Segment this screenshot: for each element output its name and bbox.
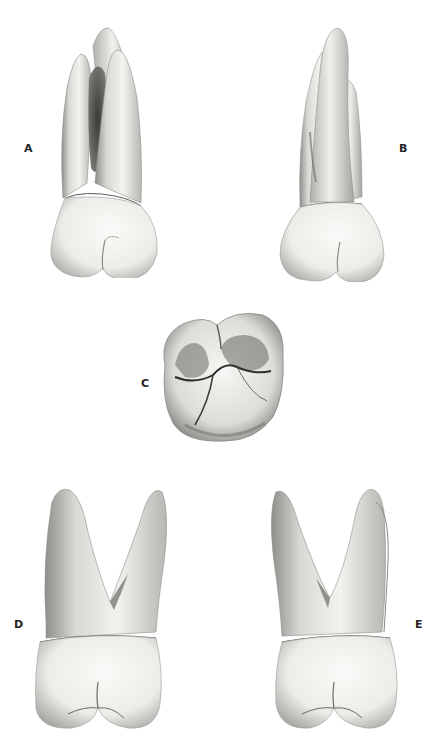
panel-label-b: B xyxy=(399,142,407,155)
panel-label-c: C xyxy=(141,377,149,390)
panel-label-e: E xyxy=(415,618,423,631)
tooth-illustration-a xyxy=(45,18,175,278)
tooth-illustration-c xyxy=(155,305,290,445)
tooth-illustration-d xyxy=(32,482,182,732)
tooth-illustration-e xyxy=(258,482,408,732)
panel-label-a: A xyxy=(24,142,33,155)
panel-label-d: D xyxy=(14,618,23,631)
tooth-illustration-b xyxy=(270,22,400,282)
